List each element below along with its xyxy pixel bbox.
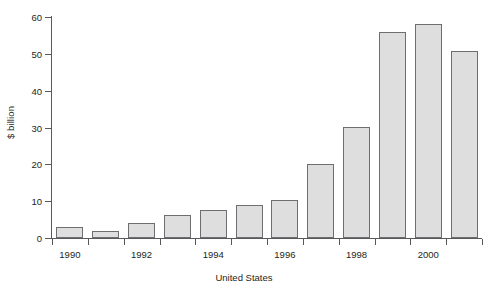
x-axis-tick-label: 1996 [274,249,295,260]
x-axis-tick-label: 1998 [346,249,367,260]
x-axis-title: United States [0,272,488,283]
y-axis-tick [45,238,51,239]
x-axis-tick [231,239,232,245]
y-axis-tick [45,91,51,92]
bar [56,227,83,238]
x-axis-tick [195,239,196,245]
bar [379,32,406,238]
bar [343,127,370,238]
x-axis-tick [375,239,376,245]
bar-chart-figure: $ billion 0102030405060 1990199219941996… [0,0,488,301]
y-axis-tick-label: 50 [0,48,42,59]
y-axis-tick-label: 60 [0,12,42,23]
bar [236,205,263,238]
bar [200,210,227,238]
x-axis-tick [482,239,483,245]
x-axis-tick [410,239,411,245]
x-axis-tick [303,239,304,245]
y-axis-tick [45,201,51,202]
y-axis-tick-label: 10 [0,196,42,207]
x-axis-tick [446,239,447,245]
y-axis-tick-label: 40 [0,85,42,96]
bar [128,223,155,238]
x-axis-tick-label: 1994 [203,249,224,260]
x-axis-tick [124,239,125,245]
x-axis-tick-label: 1992 [131,249,152,260]
y-axis-tick-label: 0 [0,233,42,244]
bar [92,231,119,238]
y-axis-tick [45,128,51,129]
y-axis-tick [45,17,51,18]
bar [451,51,478,238]
x-axis-tick [267,239,268,245]
y-axis-tick [45,54,51,55]
bar [164,215,191,238]
y-axis-tick [45,164,51,165]
bar [271,200,298,238]
bar [415,24,442,238]
y-axis-tick-label: 30 [0,122,42,133]
x-axis-tick [88,239,89,245]
bar [307,164,334,238]
x-axis-tick-label: 1990 [59,249,80,260]
x-axis-tick [160,239,161,245]
bars-plot-area [52,17,482,238]
y-axis-tick-label: 20 [0,159,42,170]
x-axis-tick [52,239,53,245]
x-axis-tick-label: 2000 [418,249,439,260]
x-axis-tick [339,239,340,245]
